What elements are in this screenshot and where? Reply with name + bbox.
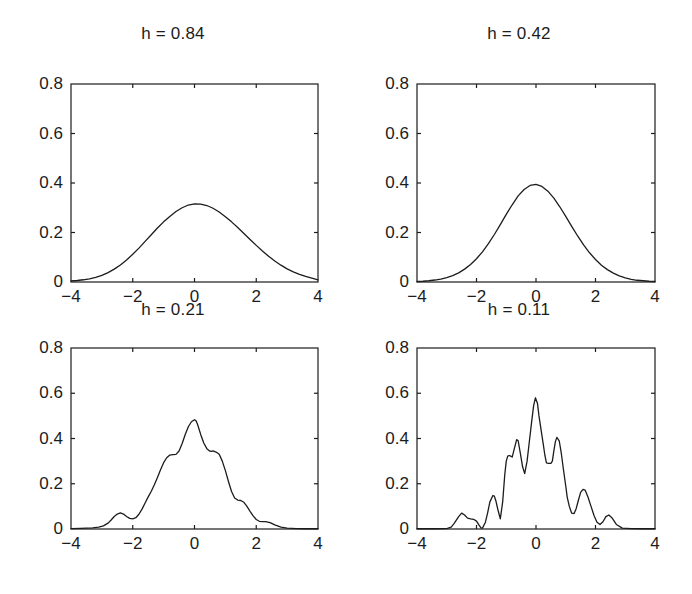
y-tick-label: 0.4: [3, 429, 63, 449]
y-tick-label: 0.6: [3, 383, 63, 403]
x-tick-label: −4: [407, 534, 426, 554]
axes-frame: [417, 84, 655, 282]
axes-box: [416, 83, 656, 283]
panel-title: h = 0.21: [0, 300, 346, 320]
x-tick-label: 4: [313, 534, 322, 554]
y-tick-label: 0.4: [349, 429, 409, 449]
x-tick-label: 4: [650, 534, 659, 554]
panel-h-0-21: h = 0.21 00.20.40.60.8−4−2024: [0, 292, 346, 594]
density-curve: [417, 184, 655, 281]
y-tick-label: 0.2: [349, 474, 409, 494]
density-curve: [71, 204, 318, 281]
y-tick-label: 0.4: [3, 173, 63, 193]
density-curve: [71, 420, 318, 529]
y-tick-label: 0.8: [3, 338, 63, 358]
x-tick-label: 2: [252, 534, 261, 554]
y-tick-label: 0.8: [3, 74, 63, 94]
axes-frame: [71, 84, 318, 282]
y-tick-label: 0.2: [349, 223, 409, 243]
x-tick-label: 2: [591, 534, 600, 554]
panel-h-0-11: h = 0.11 00.20.40.60.8−4−2024: [346, 292, 692, 594]
axes-frame: [417, 348, 655, 529]
panel-title: h = 0.42: [346, 24, 692, 44]
y-tick-label: 0.8: [349, 338, 409, 358]
axes-box: [70, 83, 319, 283]
panel-title: h = 0.84: [0, 24, 346, 44]
plot-area: 00.20.40.60.8−4−2024: [417, 348, 655, 529]
y-tick-label: 0.8: [349, 74, 409, 94]
figure-canvas: h = 0.84 00.20.40.60.8−4−2024 h = 0.42 0…: [0, 0, 692, 594]
plot-area: 00.20.40.60.8−4−2024: [417, 84, 655, 282]
x-tick-label: 0: [531, 534, 540, 554]
y-tick-label: 0.2: [3, 474, 63, 494]
y-tick-label: 0.4: [349, 173, 409, 193]
x-tick-label: −4: [61, 534, 80, 554]
plot-area: 00.20.40.60.8−4−2024: [71, 348, 318, 529]
y-tick-label: 0.2: [3, 223, 63, 243]
y-tick-label: 0: [349, 519, 409, 539]
y-tick-label: 0.6: [349, 383, 409, 403]
x-tick-label: −2: [123, 534, 142, 554]
axes-box: [70, 347, 319, 530]
x-tick-label: −2: [467, 534, 486, 554]
axes-frame: [71, 348, 318, 529]
panel-h-0-84: h = 0.84 00.20.40.60.8−4−2024: [0, 14, 346, 300]
panel-h-0-42: h = 0.42 00.20.40.60.8−4−2024: [346, 14, 692, 300]
axes-box: [416, 347, 656, 530]
y-tick-label: 0.6: [3, 124, 63, 144]
x-tick-label: 0: [190, 534, 199, 554]
y-tick-label: 0: [349, 272, 409, 292]
y-tick-label: 0: [3, 519, 63, 539]
density-curve: [417, 398, 655, 529]
plot-area: 00.20.40.60.8−4−2024: [71, 84, 318, 282]
y-tick-label: 0.6: [349, 124, 409, 144]
panel-title: h = 0.11: [346, 300, 692, 320]
y-tick-label: 0: [3, 272, 63, 292]
